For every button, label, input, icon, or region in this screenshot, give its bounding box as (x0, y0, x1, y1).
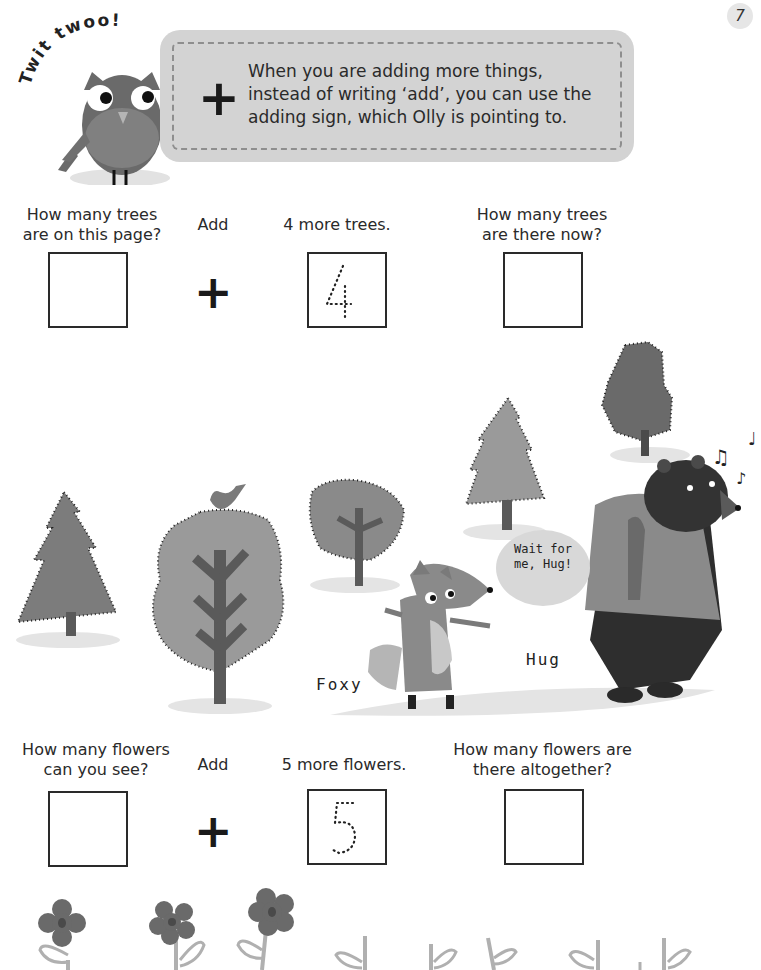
music-note-icon: ♫ (712, 445, 730, 469)
flowers-question-2: How many flowers are there altogether? (440, 740, 645, 780)
pine-tree-icon (18, 492, 116, 636)
speech-bubble-text: Wait for me, Hug! (512, 542, 574, 572)
trees-add-label: Add (188, 215, 238, 235)
flower-icon (38, 899, 86, 970)
trees-question-1: How many trees are on this page? (12, 205, 172, 245)
flower-icon (149, 901, 204, 970)
trees-plus-sign: + (194, 272, 233, 312)
trees-addend-label: 4 more trees. (272, 215, 402, 235)
flowers-add-label: Add (188, 755, 238, 775)
tip-text: When you are adding more things, instead… (248, 60, 608, 129)
page-number: 7 (727, 3, 753, 29)
bear-hug-illustration (585, 455, 741, 703)
trees-total-input-box[interactable] (503, 252, 583, 328)
trace-digit-5 (309, 791, 385, 863)
flowers-strip (0, 880, 761, 970)
flowers-total-input-box[interactable] (504, 789, 584, 865)
trees-addend-box (307, 252, 387, 328)
flowers-addend-label: 5 more flowers. (272, 755, 416, 775)
trees-question-2: How many trees are there now? (462, 205, 622, 245)
plus-sign-icon: + (198, 78, 240, 118)
pine-tree-icon (466, 398, 544, 530)
svg-text:Twit twoo!: Twit twoo! (18, 10, 122, 87)
flowers-question-1: How many flowers can you see? (12, 740, 180, 780)
trace-digit-4 (309, 254, 385, 326)
flower-stems (336, 936, 690, 970)
flowers-plus-sign: + (194, 811, 233, 851)
tip-box: + When you are adding more things, inste… (160, 30, 634, 162)
flower-icon (238, 888, 294, 970)
round-tree-icon (310, 480, 404, 586)
flowers-addend-box (307, 789, 387, 865)
character-label-hug: Hug (526, 650, 561, 669)
forest-scene: ♫ ♩ ♪ (0, 335, 761, 725)
round-tree-icon (153, 484, 283, 704)
speech-bubble: Wait for me, Hug! (496, 530, 590, 606)
music-note-icon: ♩ (748, 428, 757, 449)
bushy-tree-icon (602, 342, 672, 456)
character-label-foxy: Foxy (316, 675, 363, 694)
twit-twoo-exclamation: Twit twoo! (18, 4, 128, 94)
music-note-icon: ♪ (736, 469, 746, 488)
trees-count-input-box[interactable] (48, 252, 128, 328)
flowers-count-input-box[interactable] (48, 791, 128, 867)
